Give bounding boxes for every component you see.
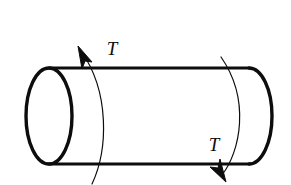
right-torque-label: T xyxy=(209,134,221,155)
shaft-right-end-arc xyxy=(249,68,272,164)
torsion-diagram-canvas: T T xyxy=(0,0,291,185)
shaft-left-end-ellipse xyxy=(26,68,72,164)
left-torque-label: T xyxy=(107,38,119,59)
right-torque-arc xyxy=(221,57,240,175)
left-torque-arrow: T xyxy=(78,38,119,184)
torsion-figure: T T xyxy=(0,0,291,185)
